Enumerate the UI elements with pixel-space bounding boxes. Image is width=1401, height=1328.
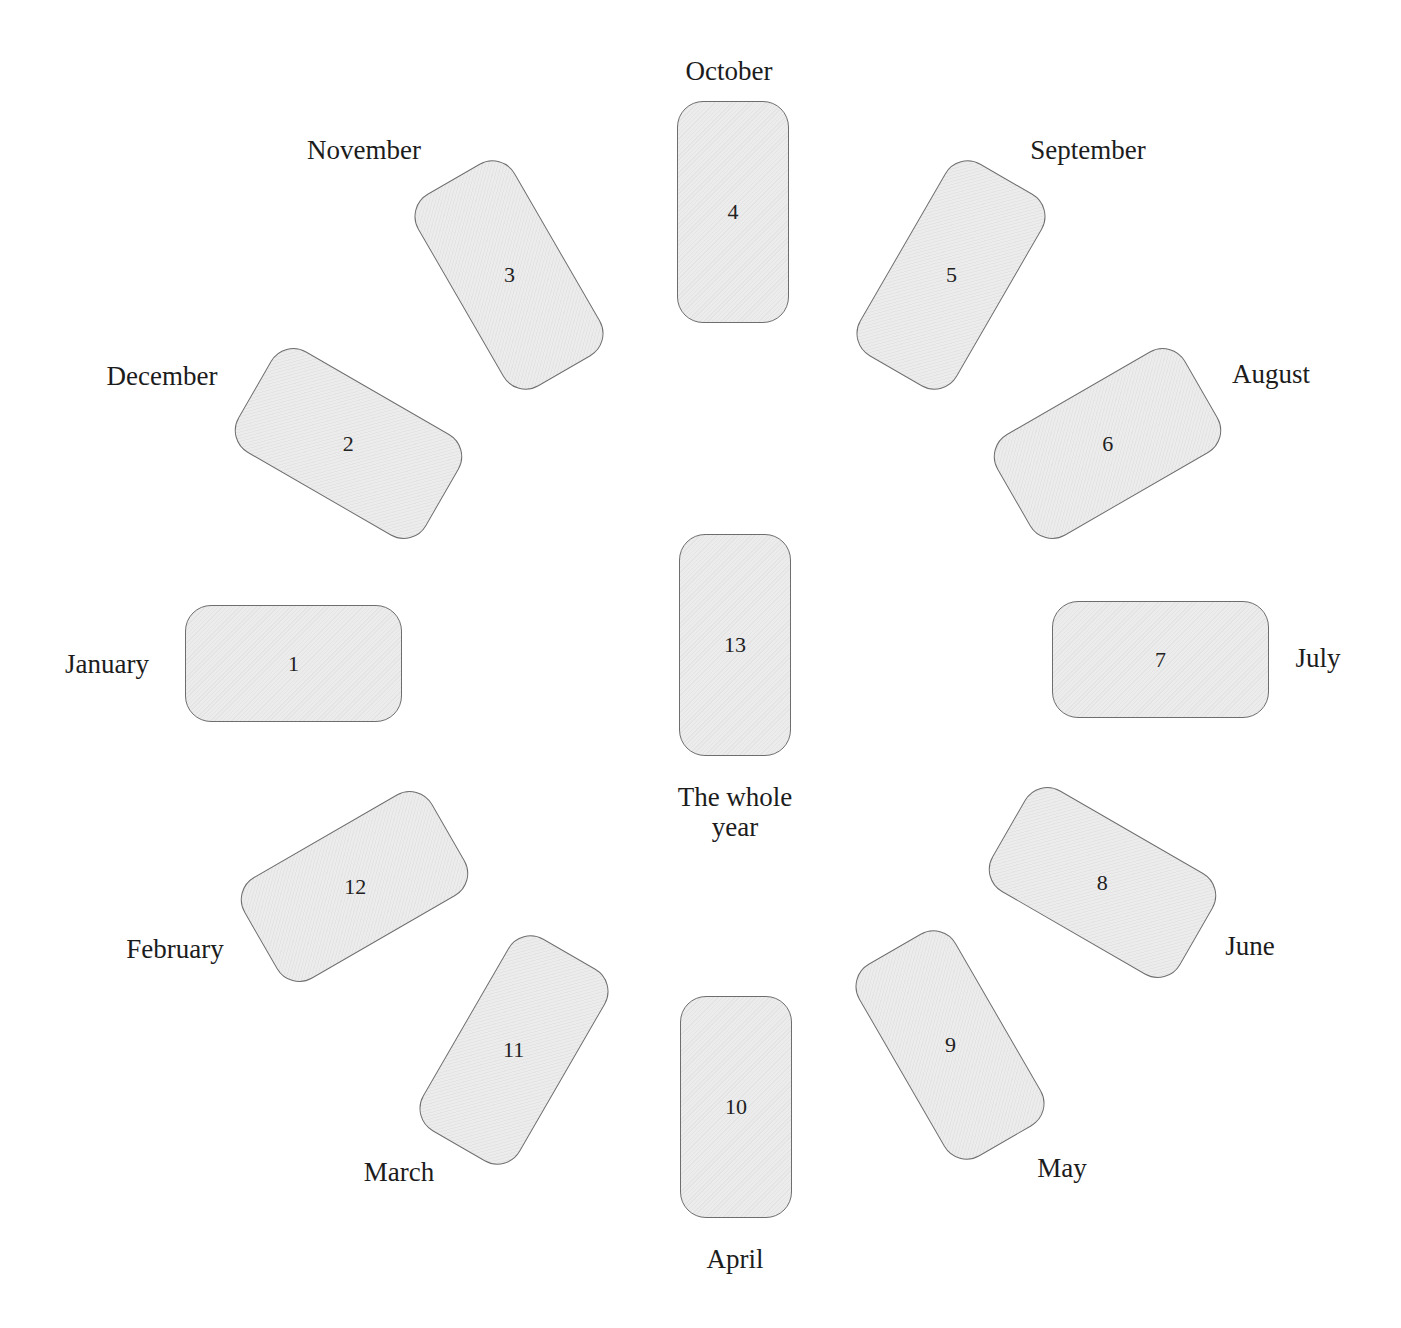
month-label-september: September — [1030, 135, 1145, 166]
card-8: 8 — [979, 778, 1225, 988]
card-9: 9 — [846, 921, 1054, 1169]
center-label-whole-year: The whole year — [678, 782, 793, 842]
month-label-october: October — [686, 56, 773, 87]
card-1: 1 — [185, 605, 402, 722]
card-number: 6 — [1102, 431, 1113, 457]
card-number: 12 — [344, 874, 366, 900]
month-label-august: August — [1232, 359, 1310, 390]
card-10: 10 — [680, 996, 792, 1218]
card-2: 2 — [225, 339, 471, 549]
month-label-january: January — [65, 649, 149, 680]
card-number: 2 — [343, 431, 354, 457]
month-label-june: June — [1225, 931, 1275, 962]
card-3: 3 — [405, 151, 613, 399]
card-number: 4 — [728, 199, 739, 225]
month-label-november: November — [307, 135, 421, 166]
card-7: 7 — [1052, 601, 1269, 718]
month-label-april: April — [707, 1244, 764, 1275]
card-4: 4 — [677, 101, 789, 323]
card-number: 3 — [504, 262, 515, 288]
card-number: 10 — [725, 1094, 747, 1120]
center-label-line1: The whole — [678, 782, 793, 812]
card-13-center: 13 — [679, 534, 791, 756]
card-number: 13 — [724, 632, 746, 658]
card-number: 11 — [503, 1037, 524, 1063]
card-number: 9 — [945, 1032, 956, 1058]
card-6: 6 — [984, 339, 1230, 549]
card-5: 5 — [847, 151, 1055, 399]
card-number: 5 — [946, 262, 957, 288]
card-number: 1 — [288, 651, 299, 677]
month-label-march: March — [364, 1157, 434, 1188]
card-number: 8 — [1097, 870, 1108, 896]
month-label-december: December — [107, 361, 218, 392]
month-label-may: May — [1037, 1153, 1087, 1184]
card-11: 11 — [410, 926, 618, 1174]
month-label-july: July — [1295, 643, 1340, 674]
card-12: 12 — [231, 782, 477, 992]
month-label-february: February — [126, 934, 223, 965]
card-number: 7 — [1155, 647, 1166, 673]
center-label-line2: year — [678, 812, 793, 842]
